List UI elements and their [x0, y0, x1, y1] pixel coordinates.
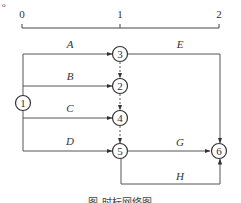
node-2: 2 [113, 79, 128, 94]
timescale-tick-1: 1 [117, 8, 123, 20]
activity-c-label: C [66, 102, 74, 114]
timescale-tick-0: 0 [19, 8, 25, 20]
timescale-tick-2: 2 [216, 8, 222, 20]
activity-h: H [121, 159, 220, 184]
svg-text:1: 1 [20, 97, 26, 109]
activity-a: A [23, 38, 112, 54]
time-scaled-network-diagram: o 0 1 2 A B C D E G H [0, 0, 241, 203]
svg-text:6: 6 [216, 145, 222, 157]
activity-b: B [23, 70, 112, 86]
node-1: 1 [16, 96, 31, 111]
svg-text:5: 5 [117, 145, 123, 157]
svg-text:2: 2 [117, 80, 123, 92]
activity-e-label: E [176, 38, 184, 50]
figure-caption: 图 时标网络图 [88, 196, 151, 203]
activity-h-label: H [175, 170, 185, 182]
node-4: 4 [113, 111, 128, 126]
activity-c: C [23, 102, 112, 118]
node-6: 6 [212, 144, 227, 159]
activity-b-label: B [67, 70, 74, 82]
corner-mark: o [2, 1, 6, 9]
node-5: 5 [113, 144, 128, 159]
activity-e: E [128, 38, 220, 143]
activity-d-label: D [65, 135, 74, 147]
activity-a-label: A [66, 38, 74, 50]
node-3: 3 [113, 47, 128, 62]
svg-text:4: 4 [117, 112, 123, 124]
activity-d: D [23, 135, 112, 151]
timescale: 0 1 2 [19, 8, 222, 28]
svg-text:3: 3 [117, 48, 123, 60]
activity-g-label: G [176, 136, 184, 148]
activity-g: G [128, 136, 210, 151]
